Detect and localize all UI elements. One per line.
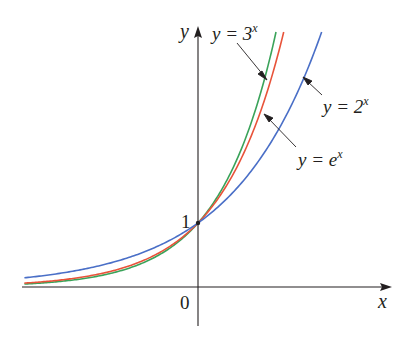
x-axis-label: x bbox=[377, 290, 387, 312]
arrow-3x bbox=[237, 43, 264, 76]
origin-label: 0 bbox=[180, 292, 190, 313]
label-2x-exp: x bbox=[362, 94, 369, 108]
y-tick-one: 1 bbox=[181, 211, 191, 232]
label-2x: y = 2x bbox=[321, 94, 369, 117]
curve-y-e-x bbox=[24, 32, 283, 283]
curves bbox=[24, 32, 321, 284]
y-axis-label: y bbox=[178, 20, 189, 43]
label-ex-exp: x bbox=[336, 147, 343, 161]
arrowhead-ex-icon bbox=[264, 114, 273, 122]
label-2x-base: y = 2 bbox=[321, 96, 364, 117]
exponential-chart: y x 0 1 y = 3x y = 2x y = ex bbox=[0, 0, 409, 337]
label-ex-base: y = e bbox=[296, 149, 337, 170]
common-point bbox=[196, 221, 200, 225]
label-ex: y = ex bbox=[296, 147, 343, 170]
curve-y-2-x bbox=[24, 32, 321, 278]
curve-y-3-x bbox=[24, 32, 276, 284]
label-3x-base: y = 3 bbox=[210, 23, 252, 44]
label-3x: y = 3x bbox=[210, 21, 258, 44]
label-3x-exp: x bbox=[251, 21, 258, 35]
